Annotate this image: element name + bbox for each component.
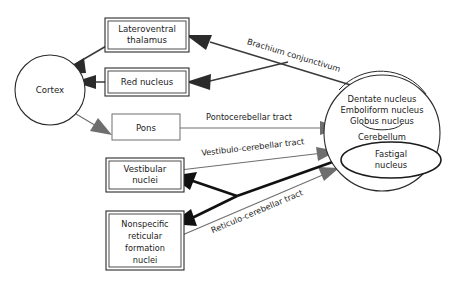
- edge-pontocerebellar: [180, 121, 341, 135]
- tract-label-reticulocerebellar: Reticulo-cerebellar tract: [209, 187, 305, 235]
- cerebellar-connections-diagram: Cortex Lateroventral thalamus Red nucleu…: [0, 0, 451, 290]
- node-nonspecific-label-line1: Nonspecific: [121, 219, 168, 229]
- edge-reticulocerebellar: [180, 167, 339, 236]
- node-vestibular-nuclei-label-line2: nuclei: [132, 175, 158, 185]
- cerebellum-label: Cerebellum: [358, 132, 406, 142]
- node-cortex-label: Cortex: [36, 85, 64, 95]
- cerebellum-deep-nucleus-globus: Globus nucleus: [350, 116, 414, 126]
- node-lateroventral-thalamus: Lateroventral thalamus: [105, 18, 189, 52]
- cerebellum-deep-nucleus-emboliform: Emboliform nucleus: [340, 105, 423, 115]
- node-vestibular-nuclei: Vestibular nuclei: [106, 158, 184, 192]
- node-pons: Pons: [112, 114, 180, 140]
- node-pons-label: Pons: [136, 123, 157, 133]
- edge-cortex-to-pons: [71, 111, 112, 135]
- node-fastigal-nucleus-label-line1: Fastigal: [375, 149, 407, 159]
- node-cerebellum: Dentate nucleus Emboliform nucleus Globu…: [324, 71, 441, 191]
- node-lateroventral-thalamus-label-line1: Lateroventral: [118, 24, 176, 34]
- node-nonspecific-label-line4: nuclei: [133, 255, 157, 265]
- node-nonspecific-reticular-nuclei: Nonspecific reticular formation nuclei: [106, 211, 184, 270]
- node-cortex: Cortex: [15, 55, 85, 125]
- node-lateroventral-thalamus-label-line2: thalamus: [127, 35, 168, 45]
- node-fastigal-nucleus: Fastigal nucleus: [341, 142, 441, 178]
- tract-label-pontocerebellar: Pontocerebellar tract: [206, 112, 293, 122]
- diagram-canvas: Cortex Lateroventral thalamus Red nucleu…: [0, 0, 451, 290]
- node-red-nucleus-label: Red nucleus: [121, 77, 174, 87]
- tract-label-vestibulocerebellar: Vestibulo-cerebellar tract: [201, 136, 306, 158]
- node-red-nucleus: Red nucleus: [105, 68, 189, 96]
- node-fastigal-nucleus-label-line2: nucleus: [375, 160, 407, 170]
- node-nonspecific-label-line2: reticular: [128, 231, 163, 241]
- node-nonspecific-label-line3: formation: [125, 243, 165, 253]
- node-vestibular-nuclei-label-line1: Vestibular: [124, 164, 167, 174]
- cerebellum-deep-nucleus-dentate: Dentate nucleus: [348, 94, 417, 104]
